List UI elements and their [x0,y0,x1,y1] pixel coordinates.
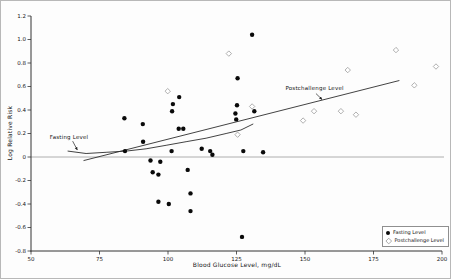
point-postchallenge [338,108,343,113]
annotation-arrow [316,94,322,100]
legend-item-fasting: Fasting Level [386,229,444,236]
y-tick-label: 0.8 [17,60,26,66]
point-fasting [234,117,238,121]
point-postchallenge [433,64,438,69]
point-fasting [241,149,245,153]
point-fasting [156,200,160,204]
point-postchallenge [226,51,231,56]
legend-label-postchallenge: Postchallenge Level [395,237,445,244]
point-fasting [181,127,185,131]
point-fasting [158,160,162,164]
legend-label-fasting: Fasting Level [393,229,426,236]
point-fasting [188,209,192,213]
point-fasting [235,103,239,107]
x-tick-label: 200 [437,256,448,262]
y-tick-label: 0.4 [17,107,26,113]
y-tick-label: -0.8 [15,248,26,254]
point-postchallenge [165,89,170,94]
point-fasting [235,76,239,80]
point-fasting [186,168,190,172]
point-fasting [250,33,254,37]
y-axis-title: Log Relative Risk [6,106,13,161]
y-tick-label: 1.2 [17,13,26,19]
y-tick-label: -0.6 [15,224,26,230]
point-postchallenge [300,118,305,123]
point-postchallenge [353,112,358,117]
point-postchallenge [311,108,316,113]
point-postchallenge [249,104,254,109]
x-tick-label: 150 [300,256,311,262]
trend-line [84,81,399,161]
legend-item-postchallenge: Postchallenge Level [386,237,444,244]
glucose-risk-scatter-figure: 1.21.00.80.60.40.20-0.2-0.4-0.6-0.850751… [0,0,451,279]
postchallenge-line-label: Postchallenge Level [285,85,343,91]
point-postchallenge [235,132,240,137]
x-tick-label: 75 [96,256,103,262]
point-fasting [200,147,204,151]
y-tick-label: -0.4 [15,201,26,207]
x-axis-title: Blood Glucose Level, mg/dL [193,261,281,268]
point-fasting [151,170,155,174]
point-fasting [210,153,214,157]
point-fasting [240,235,244,239]
annotation-arrow [73,141,78,150]
point-fasting [156,172,160,176]
point-fasting [141,140,145,144]
point-fasting [141,122,145,126]
point-fasting [252,109,256,113]
point-fasting [123,149,127,153]
y-tick-label: -0.2 [15,177,26,183]
point-fasting [148,158,152,162]
y-tick-label: 0 [23,154,27,160]
point-postchallenge [412,83,417,88]
point-postchallenge [393,47,398,52]
point-fasting [167,202,171,206]
x-tick-label: 100 [163,256,174,262]
point-fasting [188,191,192,195]
legend: Fasting Level Postchallenge Level [382,226,449,247]
y-tick-label: 1.0 [17,36,26,42]
trend-curve [68,124,253,153]
point-postchallenge [345,67,350,72]
x-tick-label: 50 [28,256,35,262]
point-fasting [177,95,181,99]
point-fasting [261,150,265,154]
y-tick-label: 0.2 [17,130,26,136]
y-tick-label: 0.6 [17,83,26,89]
x-tick-label: 175 [368,256,379,262]
point-fasting [122,116,126,120]
point-fasting [233,111,237,115]
point-fasting [177,127,181,131]
point-fasting [171,102,175,106]
filled-circle-icon [386,231,390,235]
fasting-curve-label: Fasting Level [50,134,88,140]
point-fasting [170,109,174,113]
point-fasting [169,149,173,153]
open-diamond-icon [386,237,392,243]
